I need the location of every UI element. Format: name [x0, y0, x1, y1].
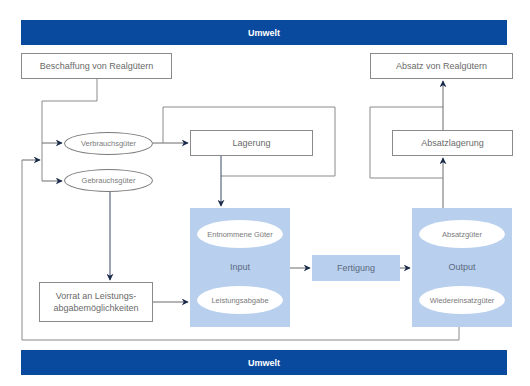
sales-label: Absatz von Realgütern	[396, 60, 487, 72]
output-box: Absatzgüter Output Wiedereinsatzgüter	[412, 208, 512, 327]
production-label: Fertigung	[337, 263, 375, 273]
storage-label: Lagerung	[232, 137, 270, 149]
procurement-box: Beschaffung von Realgütern	[21, 53, 172, 79]
sales-goods-ellipse: Absatzgüter	[419, 220, 505, 248]
input-box: Entnommene Güter Input Leistungsabgabe	[190, 208, 290, 327]
environment-band-top: Umwelt	[21, 20, 507, 45]
sales-box: Absatz von Realgütern	[370, 53, 513, 79]
sales-goods-label: Absatzgüter	[442, 230, 482, 239]
environment-label: Umwelt	[248, 28, 280, 38]
consumables-label: Verbrauchsgüter	[81, 139, 136, 148]
storage-box: Lagerung	[190, 130, 313, 156]
reuse-goods-ellipse: Wiedereinsatzgüter	[419, 286, 505, 314]
capacity-stock-box: Vorrat an Leistungs- abgabemöglichkeiten	[39, 282, 153, 322]
sales-storage-label: Absatzlagerung	[421, 137, 484, 149]
environment-band-bottom: Umwelt	[21, 350, 507, 375]
sales-storage-box: Absatzlagerung	[392, 130, 513, 156]
output-label: Output	[412, 262, 512, 272]
production-box: Fertigung	[312, 255, 400, 281]
reuse-goods-label: Wiedereinsatzgüter	[430, 296, 495, 305]
durables-ellipse: Gebrauchsgüter	[64, 169, 153, 192]
capacity-stock-label: Vorrat an Leistungs- abgabemöglichkeiten	[53, 290, 138, 314]
withdrawn-goods-ellipse: Entnommene Güter	[197, 220, 283, 248]
service-output-ellipse: Leistungsabgabe	[197, 286, 283, 314]
environment-label: Umwelt	[248, 358, 280, 368]
input-label: Input	[190, 262, 290, 272]
service-output-label: Leistungsabgabe	[211, 296, 268, 305]
procurement-label: Beschaffung von Realgütern	[40, 60, 153, 72]
durables-label: Gebrauchsgüter	[82, 176, 136, 185]
consumables-ellipse: Verbrauchsgüter	[64, 132, 153, 155]
withdrawn-goods-label: Entnommene Güter	[207, 230, 272, 239]
